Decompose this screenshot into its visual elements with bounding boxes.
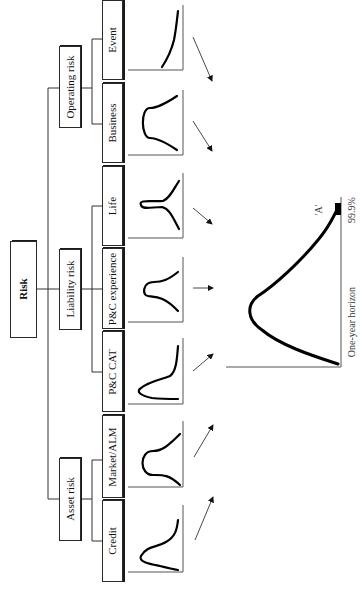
pc-experience-distribution-chart xyxy=(128,257,183,322)
credit-box: Credit xyxy=(103,499,126,582)
aggregation-arrows xyxy=(193,37,213,540)
risk-root-box: Risk xyxy=(11,240,38,338)
percentile-label: 99.9% xyxy=(346,197,357,223)
credit-label: Credit xyxy=(106,527,118,555)
business-box: Business xyxy=(103,82,126,163)
life-label: Life xyxy=(106,197,118,215)
life-distribution-chart xyxy=(128,173,183,238)
arrow-pc-cat xyxy=(193,354,213,371)
arrow-life xyxy=(193,208,212,224)
pc-cat-box: P&C CAT xyxy=(103,330,126,412)
market-alm-distribution-chart xyxy=(128,421,183,487)
horizon-label: One-year horizon xyxy=(346,287,357,357)
market-alm-label: Market/ALM xyxy=(106,427,118,486)
rating-label: 'A' xyxy=(313,204,324,215)
liability-risk-label: Liability risk xyxy=(64,260,76,318)
event-distribution-chart xyxy=(128,5,183,70)
aggregate-distribution-chart xyxy=(226,197,341,367)
arrow-business xyxy=(193,121,212,151)
asset-risk-box: Asset risk xyxy=(60,457,83,541)
pc-experience-label: P&C experience xyxy=(106,253,118,326)
risk-label: Risk xyxy=(17,277,29,299)
risk-aggregation-diagram: Risk Operating risk Liability risk Asset… xyxy=(0,0,362,589)
tail-region-99-9 xyxy=(335,203,341,215)
arrow-market-alm xyxy=(194,425,213,457)
event-label: Event xyxy=(106,27,118,53)
event-box: Event xyxy=(103,0,126,80)
operating-risk-box: Operating risk xyxy=(60,45,83,128)
liability-risk-box: Liability risk xyxy=(60,248,83,330)
business-distribution-chart xyxy=(128,90,183,155)
pc-cat-label: P&C CAT xyxy=(106,349,118,395)
business-label: Business xyxy=(106,103,118,142)
market-alm-box: Market/ALM xyxy=(103,414,126,498)
credit-distribution-chart xyxy=(128,505,183,572)
arrow-credit xyxy=(195,497,213,540)
pc-cat-distribution-chart xyxy=(128,338,183,404)
asset-risk-label: Asset risk xyxy=(64,477,76,521)
pc-experience-box: P&C experience xyxy=(103,247,126,329)
operating-risk-label: Operating risk xyxy=(64,55,76,119)
arrow-event xyxy=(193,37,212,81)
life-box: Life xyxy=(103,165,126,246)
